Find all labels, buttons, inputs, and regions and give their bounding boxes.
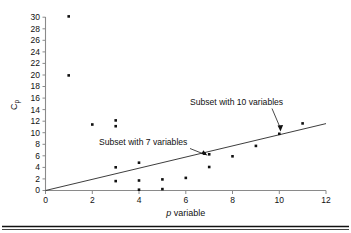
data-point [301,122,304,125]
data-point [161,188,164,191]
data-point [208,166,211,169]
y-tick-label: 26 [31,35,41,45]
y-tick-label: 28 [31,24,41,34]
x-tick-label: 12 [321,195,331,205]
data-point [67,15,70,18]
x-tick-label: 6 [183,195,188,205]
y-tick-label: 4 [35,162,40,172]
y-tick-label: 0 [35,185,40,195]
y-tick-label: 10 [31,128,41,138]
x-axis-title: p variable [165,208,205,218]
y-tick-label: 20 [31,70,41,80]
y-axis-title-subscript: p [13,100,21,104]
cp-plot-figure: 0 2 4 6 8 10 12 14 16 18 20 22 24 26 28 … [0,0,351,233]
y-tick-label: 18 [31,81,41,91]
annotation-subset-7-label: Subset with 7 variables [99,137,187,147]
x-axis-title-rest: variable [171,208,205,218]
data-point [278,133,281,136]
data-point [138,188,141,191]
x-tick-label: 0 [43,195,48,205]
data-point [114,166,117,169]
data-point [161,178,164,181]
data-point [255,145,258,148]
y-tick-label: 22 [31,58,41,68]
data-point [114,119,117,122]
annotation-subset-10-label: Subset with 10 variables [190,97,283,107]
y-tick-label: 2 [35,174,40,184]
y-tick-label: 12 [31,116,41,126]
x-tick-label: 8 [230,195,235,205]
y-tick-label: 6 [35,151,40,161]
data-point [231,155,234,158]
x-tick-label: 4 [137,195,142,205]
data-point [208,153,211,156]
data-point [91,123,94,126]
x-tick-label: 10 [275,195,285,205]
data-point [114,125,117,128]
data-point [114,180,117,183]
data-point [67,74,70,77]
y-tick-label: 16 [31,93,41,103]
figure-background [0,0,351,233]
data-point [138,179,141,182]
x-tick-label: 2 [90,195,95,205]
y-tick-label: 14 [31,105,41,115]
data-point [138,161,141,164]
data-point [185,177,188,180]
y-tick-label: 24 [31,47,41,57]
y-tick-label: 8 [35,139,40,149]
y-tick-label: 30 [31,12,41,22]
